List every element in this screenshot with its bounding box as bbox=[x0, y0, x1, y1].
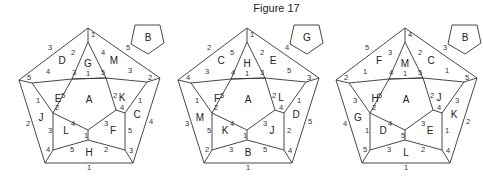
face-label-upper-left: C bbox=[217, 55, 224, 66]
edge-number: 3 bbox=[48, 43, 52, 52]
edge-number: 3 bbox=[353, 96, 357, 105]
edge-number: 5 bbox=[220, 91, 224, 100]
edge-number: 5 bbox=[287, 66, 291, 75]
edge-number: 5 bbox=[363, 145, 367, 154]
face-label-outer-right: C bbox=[133, 109, 140, 120]
face-label-upper-right: M bbox=[110, 55, 118, 66]
edge-number: 1 bbox=[246, 163, 250, 172]
edge-number: 5 bbox=[365, 43, 369, 52]
edge-number: 1 bbox=[403, 69, 407, 78]
edge-number: 1 bbox=[91, 30, 95, 39]
edge-number: 5 bbox=[70, 145, 74, 154]
face-label-upper-left: D bbox=[58, 55, 65, 66]
edge-number: 2 bbox=[214, 103, 218, 112]
edge-number: 5 bbox=[61, 91, 65, 100]
edge-number: 1 bbox=[297, 96, 301, 105]
edge-number: 3 bbox=[185, 119, 189, 128]
edge-number: 5 bbox=[101, 68, 105, 77]
face-label-bottom: L bbox=[403, 147, 409, 158]
face-label-top: M bbox=[401, 58, 409, 69]
edge-number: 3 bbox=[307, 73, 311, 82]
edge-number: 4 bbox=[186, 73, 190, 82]
edge-number: 2 bbox=[272, 91, 276, 100]
edge-number: 4 bbox=[71, 119, 75, 128]
face-label-lower-left: D bbox=[379, 125, 386, 136]
edge-number: 3 bbox=[129, 146, 133, 155]
edge-number: 3 bbox=[421, 119, 425, 128]
figure-1: BGDMEKAJCLFH1352413545325212412434534153… bbox=[19, 25, 164, 172]
edge-number: 1 bbox=[404, 163, 408, 172]
edge-number: 3 bbox=[387, 145, 391, 154]
edge-number: 4 bbox=[389, 68, 393, 77]
edge-number: 1 bbox=[138, 96, 142, 105]
edge-number: 2 bbox=[55, 103, 59, 112]
edge-number: 5 bbox=[126, 43, 130, 52]
small-pentagon-label: G bbox=[303, 32, 311, 43]
face-label-center: A bbox=[86, 94, 93, 105]
edge-number: 4 bbox=[343, 119, 347, 128]
edge-number: 2 bbox=[205, 145, 209, 154]
edge-number: 1 bbox=[245, 69, 249, 78]
edge-number: 2 bbox=[148, 73, 152, 82]
edge-number: 4 bbox=[46, 145, 50, 154]
edge-number: 4 bbox=[446, 146, 450, 155]
edge-number: 2 bbox=[71, 48, 75, 57]
edge-number: 2 bbox=[344, 73, 348, 82]
edge-number: 3 bbox=[205, 67, 209, 76]
edge-number: 4 bbox=[279, 103, 283, 112]
edge-number: 4 bbox=[408, 30, 412, 39]
edge-number: 4 bbox=[101, 48, 105, 57]
face-label-lower-left: L bbox=[63, 125, 69, 136]
figure-2: GHCEFLAMDKJB1245214334535212413552244133… bbox=[178, 25, 323, 172]
edge-number: 1 bbox=[36, 96, 40, 105]
edge-number: 5 bbox=[128, 126, 132, 135]
edge-number: 2 bbox=[207, 43, 211, 52]
edge-number: 5 bbox=[418, 68, 422, 77]
edge-number: 2 bbox=[113, 91, 117, 100]
face-label-outer-right: D bbox=[292, 109, 299, 120]
edge-number: 2 bbox=[26, 119, 30, 128]
edge-number: 1 bbox=[87, 163, 91, 172]
edge-number: 1 bbox=[86, 69, 90, 78]
face-label-center: A bbox=[403, 94, 410, 105]
edge-number: 2 bbox=[466, 117, 470, 126]
edge-number: 4 bbox=[388, 119, 392, 128]
edge-number: 3 bbox=[104, 119, 108, 128]
small-pentagon-label: B bbox=[462, 32, 469, 43]
edge-number: 1 bbox=[84, 131, 88, 140]
edge-number: 2 bbox=[372, 103, 376, 112]
small-pentagon-label: B bbox=[145, 32, 152, 43]
edge-number: 5 bbox=[378, 91, 382, 100]
edge-number: 3 bbox=[388, 48, 392, 57]
face-label-outer-left: M bbox=[196, 112, 204, 123]
face-label-bottom: B bbox=[245, 147, 252, 158]
edge-number: 3 bbox=[260, 68, 264, 77]
edge-number: 5 bbox=[207, 126, 211, 135]
edge-number: 4 bbox=[437, 103, 441, 112]
edge-number: 4 bbox=[231, 68, 235, 77]
face-label-upper-right: C bbox=[427, 55, 434, 66]
edge-number: 4 bbox=[46, 67, 50, 76]
edge-number: 3 bbox=[229, 145, 233, 154]
face-label-lower-right: J bbox=[270, 125, 275, 136]
edge-number: 1 bbox=[365, 126, 369, 135]
face-label-right-mid: J bbox=[437, 92, 442, 103]
face-label-lower-right: E bbox=[427, 125, 434, 136]
face-label-outer-right: K bbox=[451, 109, 458, 120]
face-label-upper-left: F bbox=[376, 55, 382, 66]
edge-number: 2 bbox=[418, 48, 422, 57]
face-label-right-mid: L bbox=[278, 92, 284, 103]
edge-number: 3 bbox=[455, 96, 459, 105]
edge-number: 4 bbox=[120, 103, 124, 112]
edge-number: 1 bbox=[243, 131, 247, 140]
face-label-bottom: H bbox=[85, 147, 92, 158]
edge-number: 2 bbox=[287, 126, 291, 135]
edge-number: 1 bbox=[363, 67, 367, 76]
edge-number: 2 bbox=[421, 145, 425, 154]
edge-number: 4 bbox=[230, 119, 234, 128]
face-label-outer-left: G bbox=[354, 112, 362, 123]
edge-number: 5 bbox=[263, 145, 267, 154]
edge-number: 5 bbox=[401, 131, 405, 140]
face-label-lower-right: F bbox=[110, 125, 116, 136]
edge-number: 3 bbox=[48, 126, 52, 135]
